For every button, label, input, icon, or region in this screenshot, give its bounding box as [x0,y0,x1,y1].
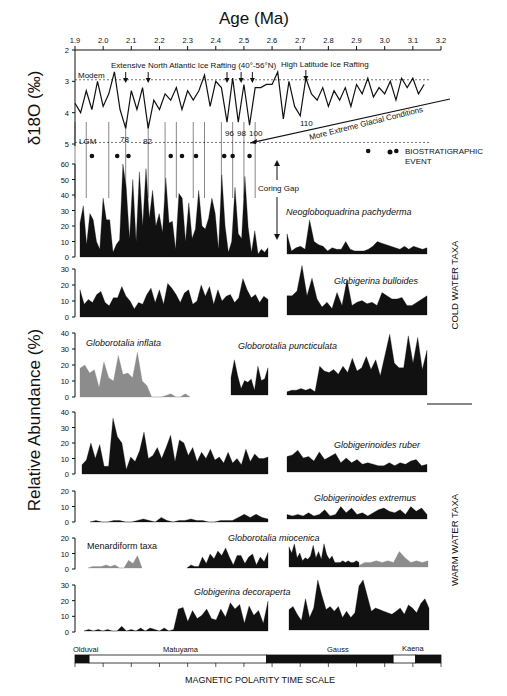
age-tick-label: 2.4 [211,36,221,45]
d18o-tick-label: 4 [65,109,69,118]
bulloides-area-right [287,265,427,315]
pachyderma-tick-label: 0 [65,253,69,262]
biostrat-event-marker-icon [90,154,95,159]
stage-82: 82 [143,137,152,146]
age-tick-label: 2.3 [182,36,192,45]
miocenica-area-left [187,548,268,568]
biostrat-event-marker-icon [194,154,199,159]
inflata-tick-label: 0 [65,393,69,402]
age-tick-label: 2.2 [154,36,164,45]
d18o-tick-label: 5 [65,140,69,149]
taxon-label-extremus: Globigerinoides extremus [314,493,417,503]
d18o-tick-label: 2 [65,46,69,55]
decoraperta-tick-label: 30 [61,581,69,590]
pachyderma-area-right [287,220,427,254]
ruber-area-right [287,450,427,472]
inflata-area [80,352,190,397]
legend-marker-icon [388,150,393,155]
inflata-tick-label: 30 [61,345,69,354]
menardiform-area-right [359,552,428,568]
pachyderma-tick-label: 10 [61,238,69,247]
miocenica-tick-label: 10 [61,550,69,559]
coring-gap-label: Coring Gap [258,184,299,193]
arrow-down-icon [303,76,308,81]
polarity-scale-title: MAGNETIC POLARITY TIME SCALE [185,675,335,685]
miocenica-tick-label: 20 [61,534,69,543]
taxon-label-inflata: Globorotalia inflata [86,338,161,348]
age-tick-label: 1.9 [70,36,80,45]
polarity-block [266,655,393,663]
inflata-tick-label: 20 [61,361,69,370]
legend-biostrat-line1: BIOSTRATIGRAPHIC [405,147,483,156]
biostrat-event-marker-icon [126,154,131,159]
pachyderma-tick-label: 20 [61,222,69,231]
polarity-block [89,655,266,663]
stage-98: 98 [237,129,246,138]
extremus-tick-label: 0 [65,518,69,527]
bulloides-tick-label: 0 [65,313,69,322]
pachyderma-tick-label: 30 [61,207,69,216]
ruber-tick-label: 20 [61,439,69,448]
ruber-tick-label: 40 [61,408,69,417]
arrow-down-icon [146,78,151,83]
ruber-area-left [82,418,268,474]
decoraperta-tick-label: 10 [61,612,69,621]
ruber-tick-label: 10 [61,455,69,464]
biostrat-event-marker-icon [222,154,227,159]
pachyderma-tick-label: 50 [61,176,69,185]
age-tick-label: 2.8 [323,36,333,45]
age-tick-label: 3.2 [436,36,446,45]
high-latitude-ice-rafting-label: High Latitude Ice Rafting [281,60,369,69]
age-tick-label: 2.5 [239,36,249,45]
lgm-label: LGM [79,137,97,146]
age-tick-label: 2.6 [267,36,277,45]
arrow-down-icon [250,78,255,83]
pachyderma-tick-label: 40 [61,191,69,200]
stage-96: 96 [225,129,234,138]
d18o-axis-label: δ18O (‰) [25,71,44,146]
age-axis-title: Age (Ma) [219,9,289,28]
arrow-down-icon [274,234,280,240]
arrow-down-icon [123,78,128,83]
cold-water-taxa-label: COLD WATER TAXA [449,240,460,330]
stage-110: 110 [300,119,313,128]
extremus-area-left [90,514,268,522]
polarity-label-olduvai: Olduvai [73,645,99,654]
arrow-up-icon [274,160,280,166]
decoraperta-tick-label: 20 [61,597,69,606]
biostrat-event-marker-icon [115,154,120,159]
age-tick-label: 2.9 [351,36,361,45]
extreme-glacial-label: More Extreme Glacial Conditions [308,105,424,142]
taxon-label-bulloides: Globigerina bulloides [334,276,419,286]
bulloides-tick-label: 20 [61,281,69,290]
arrow-down-icon [239,78,244,83]
stage-78: 78 [120,135,129,144]
polarity-block [75,655,89,663]
pachyderma-tick-label: 60 [61,160,69,169]
extensive-ice-rafting-label: Extensive North Atlantic Ice Rafting (40… [111,61,276,70]
legend-biostrat-line2: EVENT [405,157,432,166]
age-tick-label: 2.1 [126,36,136,45]
biostrat-event-marker-icon [168,154,173,159]
bulloides-tick-label: 10 [61,297,69,306]
age-tick-label: 3.0 [379,36,389,45]
miocenica-tick-label: 0 [65,565,69,574]
taxon-label-pachyderma: Neogloboquadrina pachyderma [286,207,412,217]
foraminifera-chart: 1.92.02.12.22.32.42.52.62.72.82.93.03.13… [0,0,507,696]
taxon-label-menardiform: Menardiform taxa [87,541,157,551]
ruber-tick-label: 30 [61,424,69,433]
menardiform-area-left [88,556,142,568]
stage-100: 100 [249,129,263,138]
polarity-label-gauss: Gauss [327,645,349,654]
miocenica-area-right [289,544,359,567]
decoraperta-area-left [84,601,268,631]
arrow-down-icon [225,78,230,83]
polarity-block [393,655,416,663]
decoraperta-tick-label: 0 [65,628,69,637]
polarity-block [416,655,441,663]
polarity-label-matuyama: Matuyama [163,645,199,654]
age-tick-label: 2.7 [295,36,305,45]
warm-water-taxa-label: WARM WATER TAXA [449,493,460,586]
d18o-tick-label: 3 [65,77,69,86]
ruber-tick-label: 0 [65,470,69,479]
